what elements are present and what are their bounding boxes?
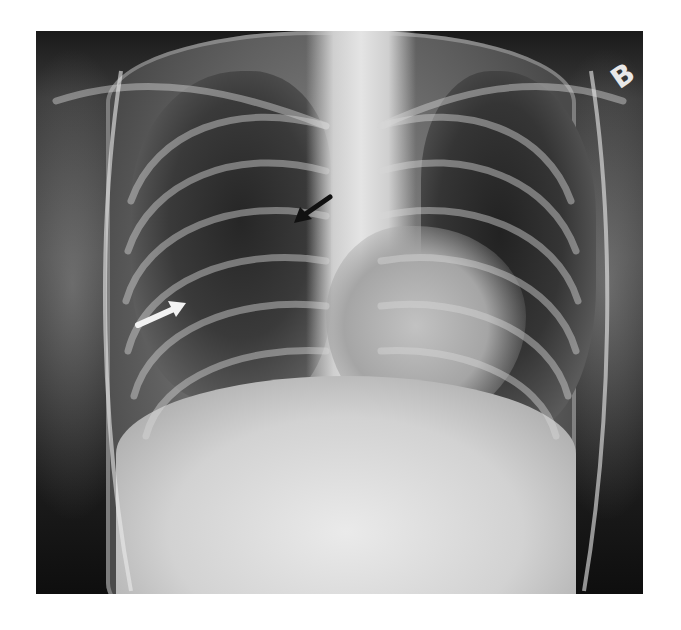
svg-text:B: B	[609, 56, 641, 93]
mediastinum-spine	[306, 31, 416, 594]
white-arrow-icon	[132, 293, 192, 333]
black-arrow-icon	[288, 191, 338, 231]
chest-xray-image: B	[36, 31, 643, 594]
soft-tissue-shadow	[36, 31, 643, 594]
left-lung-field	[421, 71, 596, 431]
orientation-marker-icon: B	[609, 53, 643, 93]
abdomen-diaphragm	[116, 376, 576, 594]
right-lung-field	[131, 71, 331, 401]
ribs-and-clavicles	[36, 31, 643, 594]
cardiac-silhouette	[326, 226, 526, 426]
